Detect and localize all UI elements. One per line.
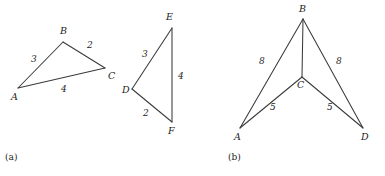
length-label-bc: 2 [86,40,93,50]
vertex-label-c: C [108,70,116,81]
vertex-label-a: A [10,91,18,102]
vertex-label-a-panel-b: A [233,131,241,142]
length-label-b-a: 8 [259,56,265,66]
vertex-label-e: E [165,11,173,22]
segment-ab [18,42,63,88]
segment-b-d [303,19,363,128]
vertex-label-f: F [167,125,175,136]
segment-de [132,28,172,89]
length-label-df: 2 [142,108,149,118]
vertex-label-c-panel-b: C [297,79,305,90]
geometry-figure-root: A B C 3 2 4 D E F 3 4 2 (a) B [0,0,385,176]
length-label-a-c: 5 [270,102,276,112]
length-label-c-d: 5 [327,102,333,112]
segment-bc [63,42,105,68]
length-label-b-d: 8 [336,56,342,66]
length-label-ef: 4 [177,71,184,81]
segment-df [132,89,172,122]
length-label-ac: 4 [60,84,67,94]
vertex-label-b: B [59,25,67,36]
vertex-label-d-panel-b: D [360,131,369,142]
triangle-abc-group: A B C 3 2 4 [10,25,116,102]
caption-panel-b: (b) [228,152,241,162]
length-label-de: 3 [142,49,148,59]
vertex-label-b-panel-b: B [298,3,306,14]
length-label-ab: 3 [31,54,37,64]
vertex-label-d: D [121,84,130,95]
geometry-canvas: A B C 3 2 4 D E F 3 4 2 (a) B [0,0,385,176]
segment-b-c [302,19,303,77]
caption-panel-a: (a) [5,152,17,162]
figure-abcd-group: B C A D 8 8 5 5 [233,3,369,142]
triangle-def-group: D E F 3 4 2 [121,11,184,136]
